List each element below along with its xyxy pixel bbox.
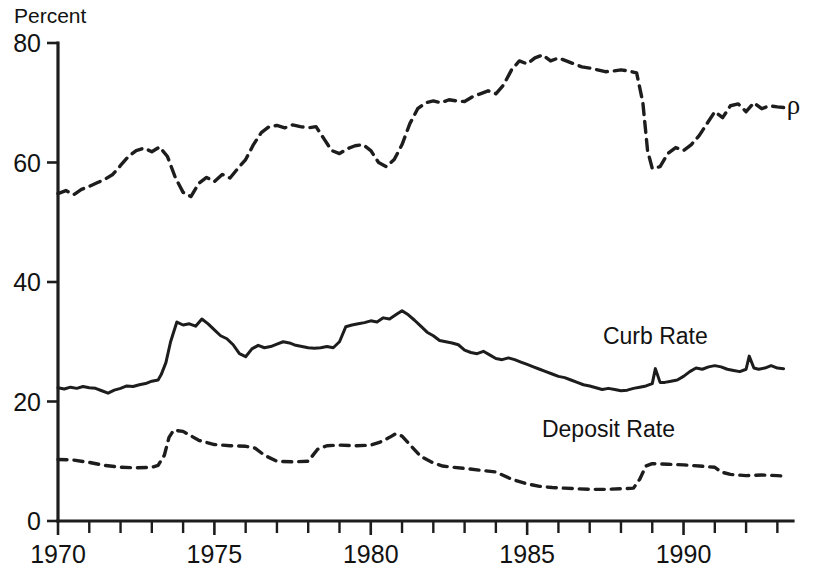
x-tick-label-1975: 1975 bbox=[187, 540, 243, 568]
series-label-curb-rate: Curb Rate bbox=[603, 323, 708, 349]
chart-figure: Percent 020406080 19701975198019851990 ρ… bbox=[0, 0, 817, 579]
y-tick-label-60: 60 bbox=[13, 149, 41, 177]
x-axis-ticks bbox=[58, 521, 777, 535]
x-tick-label-1990: 1990 bbox=[656, 540, 712, 568]
y-axis-tick-labels: 020406080 bbox=[13, 29, 41, 535]
x-tick-label-1985: 1985 bbox=[499, 540, 555, 568]
y-tick-label-0: 0 bbox=[27, 507, 41, 535]
y-tick-label-20: 20 bbox=[13, 388, 41, 416]
line-chart-svg: Percent 020406080 19701975198019851990 ρ… bbox=[0, 0, 817, 579]
y-tick-label-40: 40 bbox=[13, 268, 41, 296]
y-tick-label-80: 80 bbox=[13, 29, 41, 57]
y-axis-unit-label: Percent bbox=[14, 4, 87, 27]
x-axis-tick-labels: 19701975198019851990 bbox=[30, 540, 711, 568]
series-line-rho bbox=[58, 55, 784, 197]
series-label-rho: ρ bbox=[787, 90, 800, 120]
y-axis-ticks bbox=[47, 43, 58, 521]
series-label-deposit-rate: Deposit Rate bbox=[542, 416, 675, 442]
series-labels-group: ρCurb RateDeposit Rate bbox=[542, 90, 800, 443]
x-tick-label-1970: 1970 bbox=[30, 540, 86, 568]
x-tick-label-1980: 1980 bbox=[343, 540, 399, 568]
